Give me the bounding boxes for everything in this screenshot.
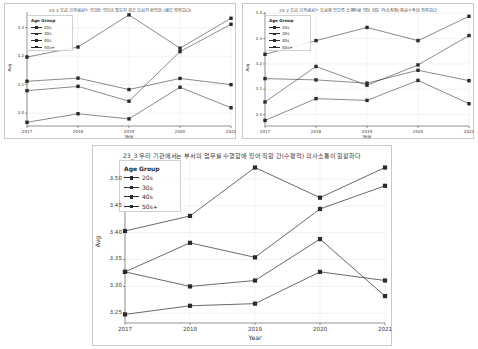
panel-2-x-tick: 2018: [302, 129, 330, 134]
legend-line-marker-icon: [124, 192, 139, 201]
legend-line-marker-icon: [269, 31, 280, 37]
chart-panel-3: 23_3 우리 기관에서는 부서의 업무를 수행함에 있어 직원 간(수평적) …: [92, 145, 392, 346]
legend-line-marker-icon: [269, 24, 280, 30]
legend-entry-50s-plus[interactable]: 50s+: [124, 202, 176, 212]
legend-entry-50s-plus[interactable]: 50s+: [269, 44, 307, 51]
chart-panel-2: 23_2 우리 기관에서는 부서의 업무를 수행함에 있어 상하 간(수직적) …: [242, 3, 474, 139]
legend-entry-40s[interactable]: 40s: [31, 37, 69, 44]
panel-2-y-tick: 3.4: [243, 10, 262, 15]
panel-2-y-tick: 3.2: [243, 61, 262, 66]
panel-1-y-tick: 3.2: [5, 53, 24, 58]
legend-line-marker-icon: [124, 183, 139, 192]
legend-entry-30s[interactable]: 30s: [31, 31, 69, 38]
panel-3-x-axis-label: Year: [125, 334, 385, 341]
panel-1-x-tick: 2020: [166, 129, 194, 134]
panel-3-x-tick: 2021: [371, 326, 399, 332]
legend-entry-20s[interactable]: 20s: [124, 173, 176, 183]
panel-2-y-tick: 3.1: [243, 86, 262, 91]
legend-line-marker-icon: [269, 44, 280, 50]
figure-canvas: 23_1 우리 기관에서는 업무상 얻기가 필요한 경우 부서간 협업이 (매우…: [0, 0, 478, 349]
legend-entry-30s[interactable]: 30s: [269, 31, 307, 38]
panel-3-y-tick: 3.45: [93, 202, 122, 208]
panel-2-x-axis-label: Year: [265, 134, 469, 139]
panel-1-x-tick: 2021: [217, 129, 245, 134]
panel-3-y-tick: 3.40: [93, 229, 122, 235]
chart-panel-1: 23_1 우리 기관에서는 업무상 얻기가 필요한 경우 부서간 협업이 (매우…: [4, 3, 236, 139]
legend-title: Age Group: [124, 164, 176, 173]
legend-entry-40s[interactable]: 40s: [269, 37, 307, 44]
panel-2-x-tick: 2021: [455, 129, 478, 134]
panel-3-x-tick: 2020: [306, 326, 334, 332]
panel-1-x-tick: 2017: [13, 129, 41, 134]
legend-entry-40s[interactable]: 40s: [124, 192, 176, 202]
panel-3-x-tick: 2018: [176, 326, 204, 332]
legend-entry-20s[interactable]: 20s: [31, 24, 69, 31]
legend-line-marker-icon: [269, 37, 280, 43]
panel-1-x-tick: 2019: [115, 129, 143, 134]
legend-line-marker-icon: [31, 24, 42, 30]
panel-3-y-tick: 3.50: [93, 175, 122, 181]
panel-1-x-axis-label: Year: [27, 134, 231, 139]
panel-3-x-tick: 2019: [241, 326, 269, 332]
panel-3-y-tick: 3.25: [93, 309, 122, 315]
legend-entry-50s-plus[interactable]: 50s+: [31, 44, 69, 51]
panel-2-x-tick: 2017: [251, 129, 279, 134]
panel-3-legend: Age Group 20s 30s 40s 50s+: [119, 160, 181, 212]
panel-2-x-tick: 2020: [404, 129, 432, 134]
legend-line-marker-icon: [124, 202, 139, 211]
panel-2-y-tick: 3.3: [243, 36, 262, 41]
panel-2-y-axis-label: Avg: [245, 56, 250, 80]
panel-1-y-tick: 3.3: [5, 25, 24, 30]
panel-3-x-tick: 2017: [111, 326, 139, 332]
panel-3-y-tick: 3.30: [93, 282, 122, 288]
panel-2-x-tick: 2019: [353, 129, 381, 134]
panel-2-y-tick: 3.0: [243, 112, 262, 117]
panel-1-y-axis-label: Avg: [7, 56, 12, 80]
panel-3-y-tick: 3.35: [93, 255, 122, 261]
legend-line-marker-icon: [31, 37, 42, 43]
legend-entry-30s[interactable]: 30s: [124, 183, 176, 193]
panel-1-y-tick: 3.1: [5, 82, 24, 87]
legend-line-marker-icon: [124, 173, 139, 182]
panel-1-x-tick: 2018: [64, 129, 92, 134]
panel-1-y-tick: 3.0: [5, 110, 24, 115]
panel-1-legend: Age Group 20s 30s 40s 50s+: [27, 15, 73, 51]
legend-entry-20s[interactable]: 20s: [269, 24, 307, 31]
panel-2-legend: Age Group 20s 30s 40s 50s+: [265, 15, 311, 51]
legend-line-marker-icon: [31, 44, 42, 50]
legend-line-marker-icon: [31, 31, 42, 37]
